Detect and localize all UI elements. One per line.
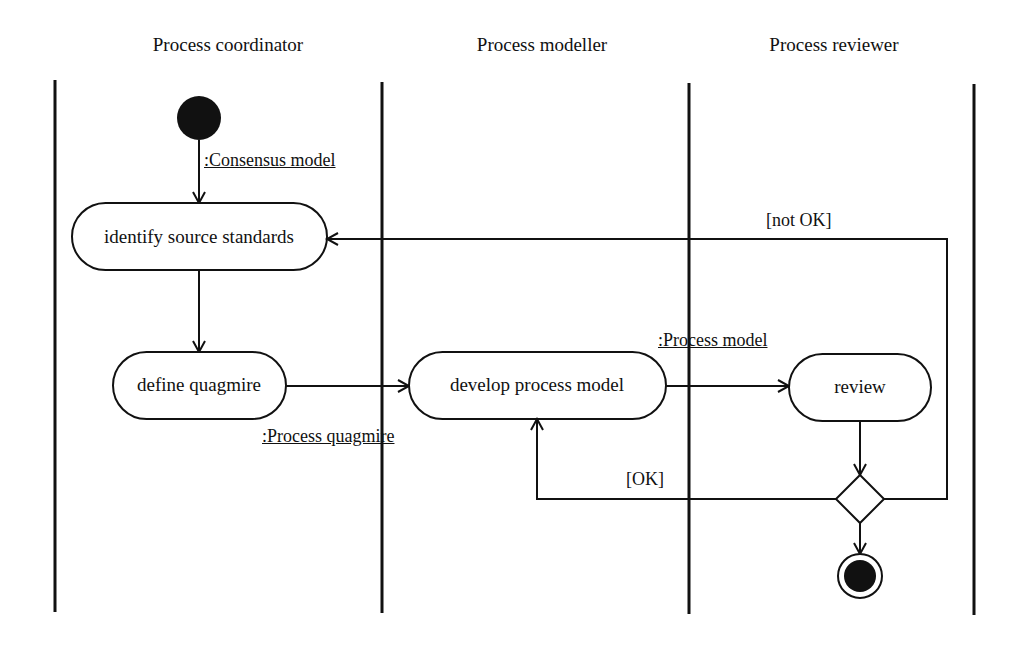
activity-diagram-canvas	[0, 0, 1019, 649]
action-label-develop: develop process model	[450, 374, 624, 396]
guard-not-ok: [not OK]	[766, 210, 832, 231]
swimlane-borders	[55, 80, 974, 615]
decision-node-icon	[836, 475, 884, 523]
guard-ok: [OK]	[626, 469, 664, 490]
lane-title-process-modeller: Process modeller	[477, 34, 607, 56]
lane-title-process-coordinator: Process coordinator	[153, 34, 303, 56]
action-label-review: review	[834, 376, 886, 398]
object-label-consensus-model: :Consensus model	[204, 150, 336, 171]
flow-ok	[537, 419, 836, 499]
action-label-identify: identify source standards	[104, 226, 294, 248]
lane-title-process-reviewer: Process reviewer	[769, 34, 898, 56]
initial-node-icon	[177, 96, 221, 140]
action-label-define: define quagmire	[137, 374, 261, 396]
object-label-process-model: :Process model	[658, 330, 768, 351]
object-label-process-quagmire: :Process quagmire	[262, 426, 394, 447]
final-node-icon	[838, 554, 882, 598]
